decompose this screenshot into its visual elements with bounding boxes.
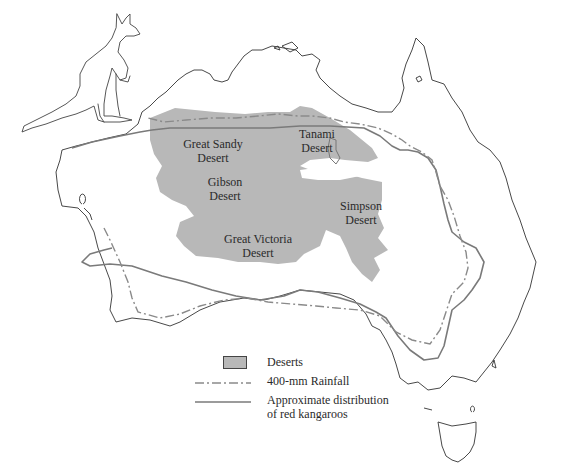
map-legend: Deserts 400-mm Rainfall Approximate dist… — [195, 355, 389, 427]
label-simpson-desert: Simpson Desert — [326, 199, 396, 227]
label-tanami-desert: Tanami Desert — [282, 127, 352, 155]
dash-dot-line-icon — [195, 374, 251, 388]
label-great-victoria-desert: Great Victoria Desert — [208, 232, 308, 260]
coastline-tasmania — [438, 422, 476, 462]
label-great-sandy-desert: Great Sandy Desert — [168, 137, 258, 165]
desert-swatch-icon — [195, 355, 251, 369]
legend-item-deserts: Deserts — [195, 355, 389, 374]
kangaroo-illustration — [22, 14, 140, 132]
legend-item-rainfall: 400-mm Rainfall — [195, 374, 389, 393]
legend-item-kangaroo-range: Approximate distribution of red kangaroo… — [195, 393, 389, 427]
solid-line-icon — [195, 393, 251, 407]
label-gibson-desert: Gibson Desert — [190, 175, 260, 203]
